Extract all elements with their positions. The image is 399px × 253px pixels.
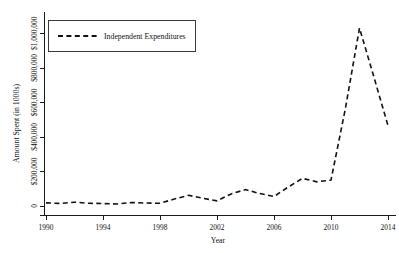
x-axis-group: 1990199419982002200620102014 Year [39, 216, 396, 246]
y-axis-group: 0$200,000$400,000$600,000$800,000$1,000,… [12, 12, 45, 215]
x-tick-label: 2014 [381, 223, 396, 232]
x-axis-title: Year [211, 236, 226, 245]
chart-figure: 0$200,000$400,000$600,000$800,000$1,000,… [0, 0, 399, 253]
data-series-group [46, 28, 388, 204]
x-tick-label: 2010 [324, 223, 339, 232]
x-tick-label: 1994 [96, 223, 111, 232]
legend-label-0: Independent Expenditures [104, 32, 186, 41]
y-tick-label: $600,000 [30, 88, 39, 116]
x-tick-marks [47, 216, 389, 221]
y-tick-label: $400,000 [30, 123, 39, 151]
y-tick-label: $1,000,000 [30, 16, 39, 50]
y-tick-label: $200,000 [30, 157, 39, 185]
x-tick-label: 2002 [210, 223, 225, 232]
chart-plot-area: 0$200,000$400,000$600,000$800,000$1,000,… [0, 0, 399, 253]
series-line-independent-expenditures [46, 28, 388, 204]
y-tick-labels: 0$200,000$400,000$600,000$800,000$1,000,… [30, 16, 39, 208]
y-tick-label: 0 [30, 204, 39, 208]
legend: Independent Expenditures [49, 21, 196, 52]
x-tick-labels: 1990199419982002200620102014 [39, 223, 396, 232]
x-tick-label: 2006 [267, 223, 282, 232]
y-axis-title: Amount Spent (in 1000s) [12, 84, 21, 163]
y-tick-marks [40, 34, 45, 207]
x-tick-label: 1990 [39, 223, 54, 232]
x-tick-label: 1998 [153, 223, 168, 232]
y-tick-label: $800,000 [30, 54, 39, 82]
